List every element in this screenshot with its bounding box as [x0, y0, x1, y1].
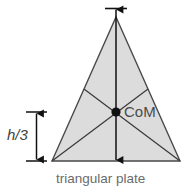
- center-of-mass-label: CoM: [124, 104, 156, 119]
- figure-caption: triangular plate: [56, 172, 145, 186]
- height-third-label: h/3: [7, 127, 28, 142]
- figure-canvas: [0, 0, 185, 193]
- triangular-plate-figure: CoM h/3 triangular plate: [0, 0, 185, 193]
- center-of-mass-dot: [111, 107, 120, 116]
